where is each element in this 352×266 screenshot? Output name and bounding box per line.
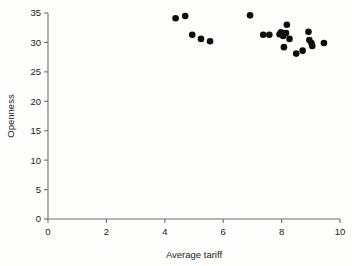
data-point (305, 29, 312, 36)
y-tick-label: 5 (36, 184, 41, 195)
y-axis-title: Openness (5, 94, 16, 138)
x-tick-label: 4 (162, 226, 167, 237)
x-axis-title: Average tariff (166, 249, 223, 260)
x-tick-label: 10 (335, 226, 346, 237)
axis-group (48, 13, 340, 219)
data-point (299, 47, 306, 54)
data-point (266, 31, 273, 38)
data-point (207, 38, 214, 45)
y-tick-label: 15 (30, 125, 41, 136)
data-point (309, 43, 316, 50)
data-point (284, 21, 291, 28)
data-point (172, 15, 179, 22)
data-point (281, 44, 288, 51)
data-point (283, 30, 290, 37)
data-point (260, 31, 267, 38)
data-point (182, 13, 189, 20)
y-tick-label: 35 (30, 7, 41, 18)
data-point (189, 31, 196, 38)
x-tick-label: 8 (279, 226, 284, 237)
data-point (286, 36, 293, 43)
y-tick-label: 25 (30, 66, 41, 77)
y-tick-label: 20 (30, 96, 41, 107)
data-point (247, 12, 254, 19)
y-tick-group: 05101520253035 (30, 7, 48, 224)
y-tick-label: 0 (36, 213, 41, 224)
data-point (321, 40, 328, 47)
y-tick-label: 10 (30, 155, 41, 166)
data-point (293, 50, 300, 57)
data-point (198, 36, 205, 43)
x-tick-label: 6 (221, 226, 226, 237)
x-tick-label: 0 (45, 226, 50, 237)
y-tick-label: 30 (30, 37, 41, 48)
chart-svg: 05101520253035 0246810 Average tariff Op… (0, 0, 352, 266)
x-tick-label: 2 (104, 226, 109, 237)
data-point-group (172, 12, 327, 57)
plot-area: 05101520253035 0246810 Average tariff Op… (0, 0, 352, 266)
scatter-plot-figure: 05101520253035 0246810 Average tariff Op… (0, 0, 352, 266)
x-tick-group: 0246810 (45, 219, 345, 237)
